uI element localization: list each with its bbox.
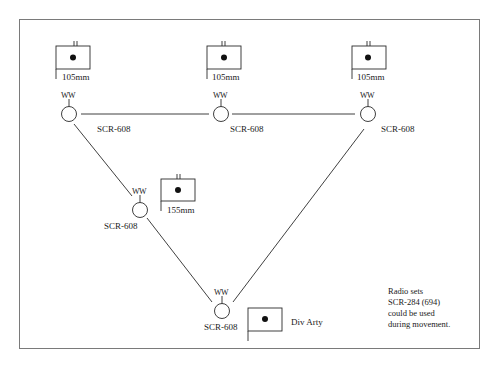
radio-note: Radio sets SCR-284 (694) could be used d… xyxy=(388,286,478,330)
link-n5-n3 xyxy=(233,129,364,302)
radio-label-n5: SCR-608 xyxy=(204,322,238,333)
radio-label-n3: SCR-608 xyxy=(381,124,415,135)
unit-label-155mm: 155mm xyxy=(167,205,195,216)
antenna-label-n5: WW xyxy=(214,289,228,297)
antenna-label-n3: WW xyxy=(360,92,374,100)
radio-label-n4: SCR-608 xyxy=(104,221,138,232)
radio-node-n5 xyxy=(215,296,230,319)
antenna-label-n2: WW xyxy=(213,92,227,100)
antenna-label-n1: WW xyxy=(61,92,75,100)
antenna-label-n4: WW xyxy=(132,188,146,196)
radio-node-n1 xyxy=(62,99,77,122)
note-line-2: SCR-284 (694) xyxy=(388,297,478,308)
radio-label-n1: SCR-608 xyxy=(97,124,131,135)
unit-label-105mm-center: 105mm xyxy=(212,72,240,83)
note-line-4: during movement. xyxy=(388,319,478,330)
note-line-3: could be used xyxy=(388,308,478,319)
unit-label-105mm-right: 105mm xyxy=(357,72,385,83)
link-n4-n5 xyxy=(147,218,212,302)
radio-node-n4 xyxy=(133,195,148,218)
radio-label-n2: SCR-608 xyxy=(230,124,264,135)
radio-node-n2 xyxy=(214,99,229,122)
unit-label-div-arty: Div Arty xyxy=(291,317,323,328)
note-line-1: Radio sets xyxy=(388,286,478,297)
radio-node-n3 xyxy=(361,99,376,122)
unit-label-105mm-left: 105mm xyxy=(62,72,90,83)
unit-symbol-div-arty xyxy=(248,308,282,341)
